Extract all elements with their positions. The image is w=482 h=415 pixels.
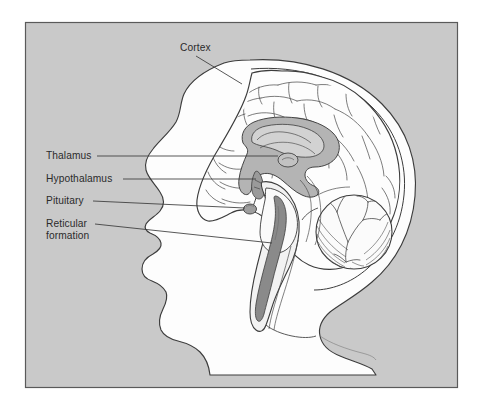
figure-root: Cortex Thalamus Hypothalamus Pituitary R… <box>0 0 482 415</box>
thalamus-mass <box>278 153 298 167</box>
label-reticular-formation-line1: Reticular <box>46 218 88 229</box>
label-pituitary-text: Pituitary <box>46 195 85 206</box>
label-hypothalamus-text: Hypothalamus <box>46 173 112 184</box>
label-cortex-text: Cortex <box>180 42 211 53</box>
label-thalamus-text: Thalamus <box>46 150 92 161</box>
label-reticular-formation-line2: formation <box>46 230 89 241</box>
